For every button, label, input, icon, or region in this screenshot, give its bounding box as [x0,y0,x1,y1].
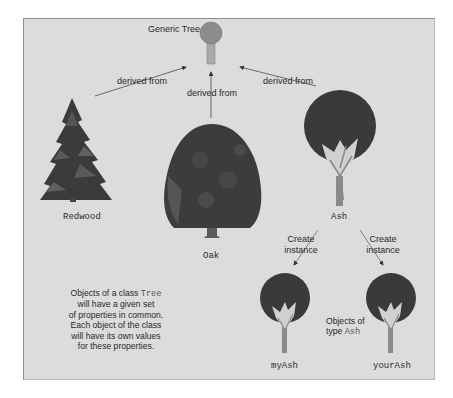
derived-from-label-ash: derived from [263,76,313,87]
myash-tree-image [260,273,310,353]
class-label-oak: Oak [203,251,219,262]
explanation-note: Objects of a class Tree will have a give… [52,288,180,351]
instance-label-yourash: yourAsh [373,361,411,372]
instances-caption: Objects of type Ash [326,316,365,338]
derived-from-label-oak: derived from [187,88,237,99]
generic-tree-label: Generic Tree [148,24,200,35]
yourash-tree-image [366,273,416,353]
class-label-ash: Ash [331,212,347,223]
redwood-tree-image [40,98,112,202]
create-instance-label-right: Create instance [363,234,403,256]
ash-tree-image [304,90,376,206]
oak-tree-image [164,124,261,238]
generic-tree-icon [200,22,222,64]
class-label-redwood: Redwood [63,212,101,223]
instance-label-myash: myAsh [271,361,298,372]
derived-from-label-redwood: derived from [117,76,167,87]
create-instance-label-left: Create instance [281,234,321,256]
